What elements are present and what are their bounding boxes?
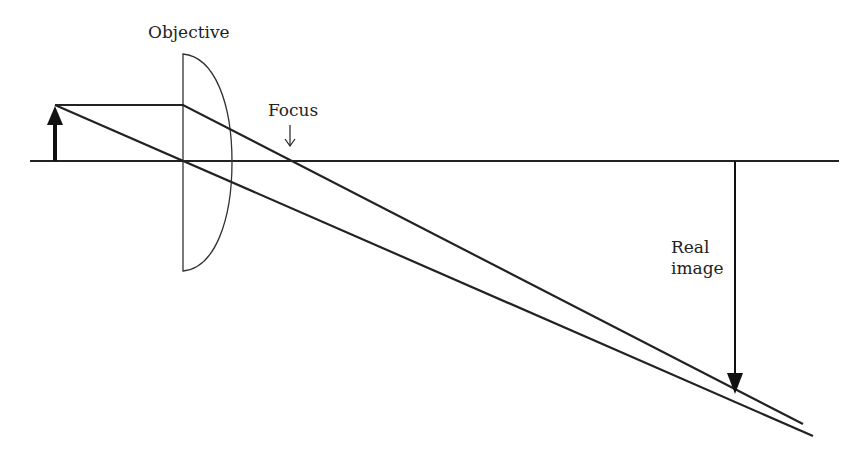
objective-label: Objective: [148, 23, 230, 42]
real-image-label-line2: image: [671, 259, 724, 278]
objective-lens: [183, 54, 232, 271]
focus-label: Focus: [268, 101, 318, 120]
object-arrow-head: [47, 106, 63, 125]
optics-diagram: [0, 0, 854, 454]
real-image-label-line1: Real: [671, 238, 709, 257]
